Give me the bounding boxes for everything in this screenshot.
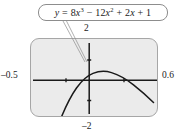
y-max-label: 2 bbox=[84, 23, 89, 33]
equation-lhs: y bbox=[55, 7, 60, 18]
equation-term2-coeff: 12 bbox=[95, 7, 105, 18]
equation-term1-exponent: 3 bbox=[80, 6, 83, 13]
equation-equals: = bbox=[62, 7, 68, 18]
equation-term3-var: x bbox=[130, 7, 135, 18]
equation-operator-1: − bbox=[87, 7, 93, 18]
equation-operator-2: + bbox=[116, 7, 122, 18]
equation-callout-box: y = 8x3 − 12x2 + 2x + 1 bbox=[38, 4, 168, 21]
graph-plot-area bbox=[30, 38, 158, 117]
equation-constant: 1 bbox=[146, 7, 151, 18]
equation-term2-exponent: 2 bbox=[110, 6, 113, 13]
equation-label: y = 8x3 − 12x2 + 2x + 1 bbox=[55, 7, 151, 18]
equation-operator-3: + bbox=[137, 7, 143, 18]
y-min-label: –2 bbox=[82, 121, 92, 131]
cubic-curve bbox=[61, 71, 154, 117]
x-max-label: 0.6 bbox=[162, 70, 174, 80]
x-min-label: –0.5 bbox=[1, 70, 18, 80]
graph-svg bbox=[31, 39, 158, 117]
